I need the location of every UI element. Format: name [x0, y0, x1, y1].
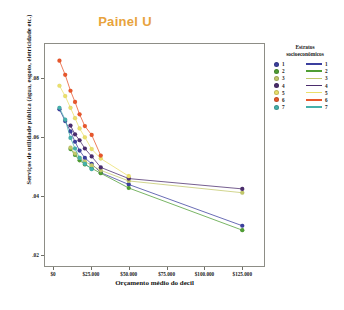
data-point	[68, 123, 72, 127]
chart-title: Painel U	[0, 14, 250, 29]
legend-line-icon	[306, 92, 322, 93]
legend-marker-label: 2	[282, 68, 285, 74]
data-point	[240, 228, 244, 232]
legend-marker-label: 1	[282, 61, 285, 67]
x-tick-label: $100.000	[184, 271, 224, 277]
data-point	[73, 100, 77, 104]
data-point	[90, 167, 94, 171]
legend-marker-label: 7	[282, 104, 285, 110]
legend-marker-label: 5	[282, 90, 285, 96]
data-point	[90, 147, 94, 151]
data-point	[99, 165, 103, 169]
x-tick-label: $125.000	[222, 271, 262, 277]
y-tick-label: .06	[17, 134, 39, 140]
legend-item-6[interactable]: 6	[274, 97, 306, 103]
legend-marker-label: 4	[282, 83, 285, 89]
data-point	[73, 140, 77, 144]
data-point	[90, 133, 94, 137]
legend: Estratos socioeconômicos 1234567 1234567	[268, 44, 342, 110]
legend-title: Estratos socioeconômicos	[268, 44, 342, 58]
legend-line-label: 5	[325, 90, 328, 96]
legend-line-item-4[interactable]: 4	[306, 83, 342, 89]
legend-marker-label: 6	[282, 97, 285, 103]
data-point	[83, 146, 87, 150]
data-point	[77, 156, 81, 160]
legend-line-label: 4	[325, 83, 328, 89]
data-point	[57, 84, 61, 88]
legend-item-1[interactable]: 1	[274, 61, 306, 67]
legend-line-item-7[interactable]: 7	[306, 104, 342, 110]
x-tick-label: $50.000	[109, 271, 149, 277]
plot-canvas	[44, 43, 265, 267]
legend-line-item-2[interactable]: 2	[306, 68, 342, 74]
x-tick-label: $0	[33, 271, 73, 277]
legend-line-icon	[306, 78, 322, 79]
legend-line-item-6[interactable]: 6	[306, 97, 342, 103]
data-point	[63, 118, 67, 122]
data-point	[77, 126, 81, 130]
legend-line-icon	[306, 70, 322, 71]
data-point	[73, 132, 77, 136]
data-point	[83, 124, 87, 128]
legend-line-column: 1234567	[306, 61, 342, 110]
y-tick-mark	[41, 255, 44, 256]
x-tick-mark	[91, 267, 92, 270]
data-point	[77, 148, 81, 152]
data-point	[240, 187, 244, 191]
legend-marker-icon	[274, 105, 279, 110]
y-tick-mark	[41, 137, 44, 138]
legend-line-icon	[306, 63, 322, 64]
chart-page: Painel U Serviços de utilidade pública (…	[0, 0, 344, 310]
data-point	[63, 73, 67, 77]
data-point	[68, 106, 72, 110]
series-line-4	[70, 126, 242, 189]
legend-marker-label: 3	[282, 75, 285, 81]
data-point	[240, 224, 244, 228]
legend-line-item-3[interactable]: 3	[306, 75, 342, 81]
x-axis-title: Orçamento médio do decil	[44, 279, 265, 287]
legend-line-label: 6	[325, 97, 328, 103]
legend-item-4[interactable]: 4	[274, 83, 306, 89]
legend-line-label: 2	[325, 68, 328, 74]
legend-marker-column: 1234567	[268, 61, 306, 110]
legend-body: 1234567 1234567	[268, 61, 342, 110]
data-point	[90, 154, 94, 158]
data-point	[99, 153, 103, 157]
legend-marker-icon	[274, 62, 279, 67]
legend-item-2[interactable]: 2	[274, 68, 306, 74]
x-tick-mark	[129, 267, 130, 270]
legend-marker-icon	[274, 90, 279, 95]
x-tick-mark	[167, 267, 168, 270]
x-tick-mark	[204, 267, 205, 270]
legend-title-line2: socioeconômicos	[268, 51, 342, 58]
x-tick-label: $25.000	[71, 271, 111, 277]
data-point	[77, 138, 81, 142]
data-point	[77, 112, 81, 116]
legend-line-label: 1	[325, 61, 328, 67]
legend-line-item-5[interactable]: 5	[306, 90, 342, 96]
x-tick-mark	[53, 267, 54, 270]
data-point	[90, 163, 94, 167]
legend-marker-icon	[274, 97, 279, 102]
data-point	[68, 136, 72, 140]
data-point	[127, 174, 131, 178]
legend-line-icon	[306, 85, 322, 86]
data-point	[68, 146, 72, 150]
legend-marker-icon	[274, 83, 279, 88]
legend-item-5[interactable]: 5	[274, 90, 306, 96]
data-point	[68, 89, 72, 93]
data-point	[83, 162, 87, 166]
legend-item-3[interactable]: 3	[274, 75, 306, 81]
y-tick-mark	[41, 78, 44, 79]
data-point	[73, 146, 77, 150]
y-tick-label: .02	[17, 252, 39, 258]
legend-line-icon	[306, 106, 322, 107]
legend-marker-icon	[274, 76, 279, 81]
x-tick-label: $75.000	[147, 271, 187, 277]
series-6	[57, 59, 103, 158]
y-tick-label: .08	[17, 75, 39, 81]
legend-item-7[interactable]: 7	[274, 104, 306, 110]
legend-line-icon	[306, 99, 322, 100]
legend-line-item-1[interactable]: 1	[306, 61, 342, 67]
series-4	[68, 123, 244, 191]
